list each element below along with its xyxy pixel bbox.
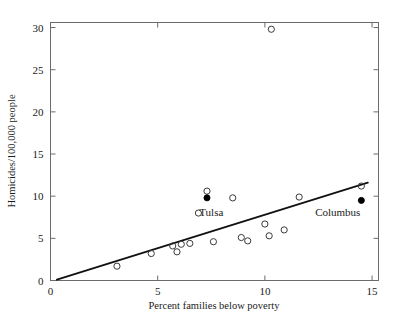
data-point xyxy=(266,233,272,239)
data-point xyxy=(296,194,302,200)
y-tick-label: 10 xyxy=(33,190,45,202)
data-point xyxy=(245,238,251,244)
y-tick-label: 30 xyxy=(33,22,45,34)
x-tick-label: 15 xyxy=(367,285,379,297)
data-points-highlighted xyxy=(204,195,364,204)
plot-frame xyxy=(51,23,379,281)
y-axis-tickmarks xyxy=(51,28,379,281)
data-points-open xyxy=(114,26,365,269)
x-tick-label: 5 xyxy=(155,285,161,297)
data-point xyxy=(210,239,216,245)
y-axis-title: Homicides/100,000 people xyxy=(6,94,17,207)
regression-line xyxy=(57,183,368,280)
data-point xyxy=(148,250,154,256)
y-tick-label: 0 xyxy=(38,275,44,287)
data-point xyxy=(281,227,287,233)
data-point xyxy=(268,26,274,32)
data-point xyxy=(238,234,244,240)
y-axis-tick-labels: 051015202530 xyxy=(33,22,45,287)
data-point xyxy=(230,195,236,201)
point-label-columbus: Columbus xyxy=(315,206,360,218)
data-point-highlighted xyxy=(204,195,210,201)
data-point xyxy=(178,241,184,247)
point-label-tulsa: Tulsa xyxy=(199,206,223,218)
x-tick-label: 0 xyxy=(48,285,54,297)
y-tick-label: 15 xyxy=(33,148,45,160)
scatter-plot-figure: 051015 051015202530 Tulsa Columbus Perce… xyxy=(0,0,395,324)
plot-canvas: 051015 051015202530 Tulsa Columbus Perce… xyxy=(0,0,395,324)
data-point xyxy=(114,263,120,269)
data-point xyxy=(262,221,268,227)
data-point xyxy=(187,240,193,246)
data-point xyxy=(204,188,210,194)
data-point xyxy=(174,249,180,255)
x-tick-label: 10 xyxy=(259,285,271,297)
data-point-highlighted xyxy=(358,197,364,203)
y-tick-label: 20 xyxy=(33,106,45,118)
y-tick-label: 5 xyxy=(38,232,44,244)
y-tick-label: 25 xyxy=(33,64,45,76)
x-axis-title: Percent families below poverty xyxy=(149,300,281,311)
x-axis-tickmarks xyxy=(51,23,373,281)
x-axis-tick-labels: 051015 xyxy=(48,285,378,297)
